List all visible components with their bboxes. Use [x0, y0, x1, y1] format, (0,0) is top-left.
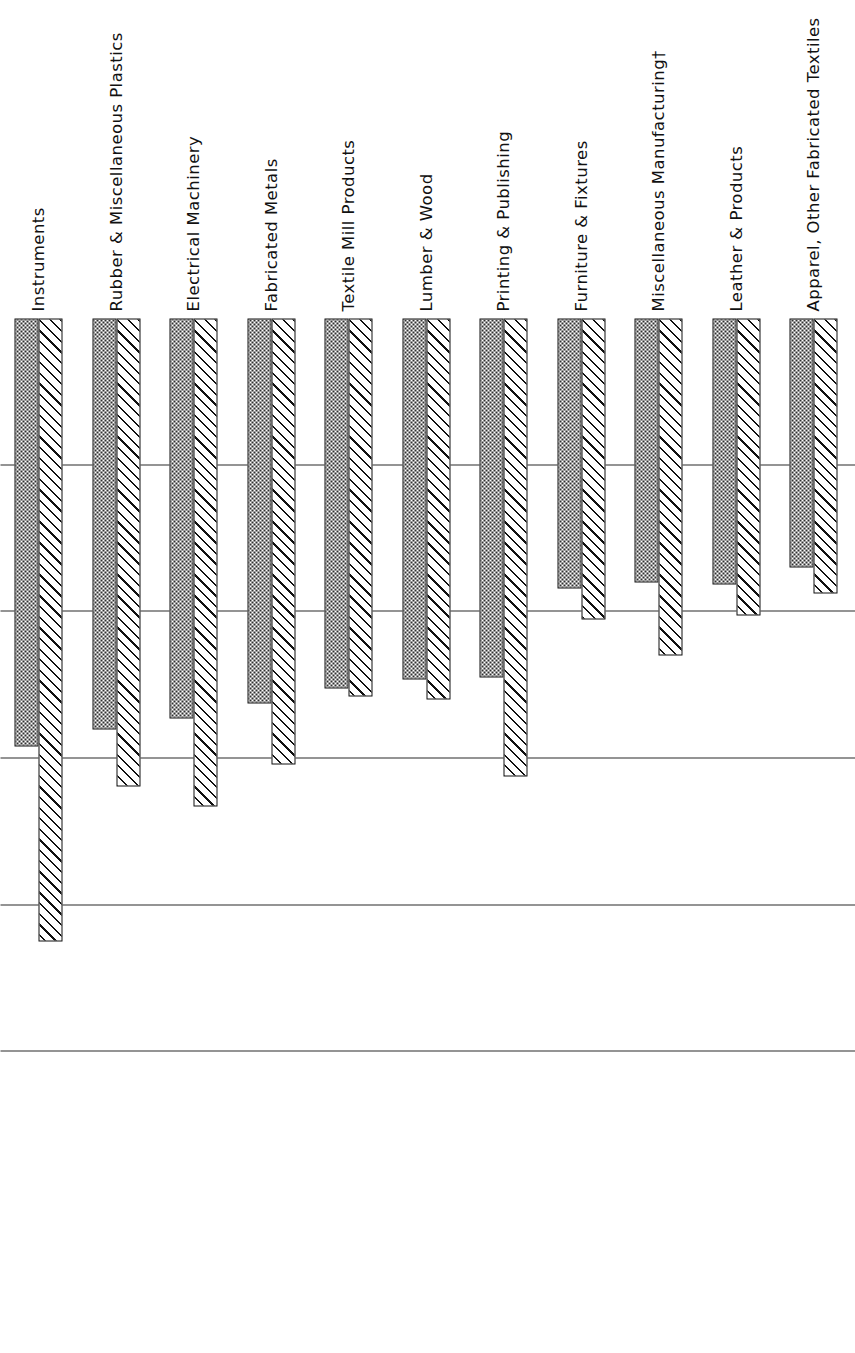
bar-series-2: [813, 318, 837, 593]
category-label: Furniture & Fixtures: [571, 140, 590, 311]
bar-series-1: [789, 318, 813, 567]
bar-row: [479, 318, 531, 1353]
bar-row: [634, 318, 686, 1353]
bar-series-1: [324, 318, 348, 688]
bar-series-1: [402, 318, 426, 679]
bar-series-1: [634, 318, 658, 582]
category-label: Rubber & Miscellaneous Plastics: [106, 32, 125, 311]
bar-series-2: [38, 318, 62, 941]
bar-series-2: [193, 318, 217, 806]
bar-series-1: [479, 318, 503, 677]
bar-series-2: [348, 318, 372, 696]
category-label: Printing & Publishing: [493, 130, 512, 311]
bar-series-2: [658, 318, 682, 655]
bar-series-2: [736, 318, 760, 615]
bar-series-2: [503, 318, 527, 776]
bar-series-1: [557, 318, 581, 588]
bar-row: [557, 318, 609, 1353]
category-label: Apparel, Other Fabricated Textiles: [803, 17, 822, 311]
plot-region: [0, 318, 855, 1353]
bar-series-2: [116, 318, 140, 786]
bar-row: [324, 318, 376, 1353]
figure-page: InstrumentsRubber & Miscellaneous Plasti…: [0, 0, 855, 1353]
bar-series-2: [271, 318, 295, 764]
bar-series-2: [426, 318, 450, 699]
bar-series-1: [14, 318, 38, 746]
category-label: Fabricated Metals: [261, 158, 280, 311]
rotated-figure-frame: InstrumentsRubber & Miscellaneous Plasti…: [0, 0, 855, 1353]
bar-series-1: [712, 318, 736, 584]
bar-rows: [0, 318, 855, 1353]
bar-series-1: [169, 318, 193, 718]
bar-series-1: [92, 318, 116, 729]
bar-row: [789, 318, 841, 1353]
bar-row: [14, 318, 66, 1353]
bar-row: [247, 318, 299, 1353]
bar-row: [402, 318, 454, 1353]
category-label: Textile Mill Products: [338, 139, 357, 311]
category-label: Miscellaneous Manufacturing†: [648, 50, 667, 311]
category-label: Instruments: [28, 207, 47, 311]
bar-row: [92, 318, 144, 1353]
bar-row: [712, 318, 764, 1353]
category-label: Electrical Machinery: [183, 135, 202, 311]
category-label: Leather & Products: [726, 145, 745, 311]
chart-area: InstrumentsRubber & Miscellaneous Plasti…: [0, 498, 855, 1353]
category-label: Lumber & Wood: [416, 173, 435, 311]
bar-series-1: [247, 318, 271, 703]
bar-series-2: [581, 318, 605, 619]
bar-row: [169, 318, 221, 1353]
